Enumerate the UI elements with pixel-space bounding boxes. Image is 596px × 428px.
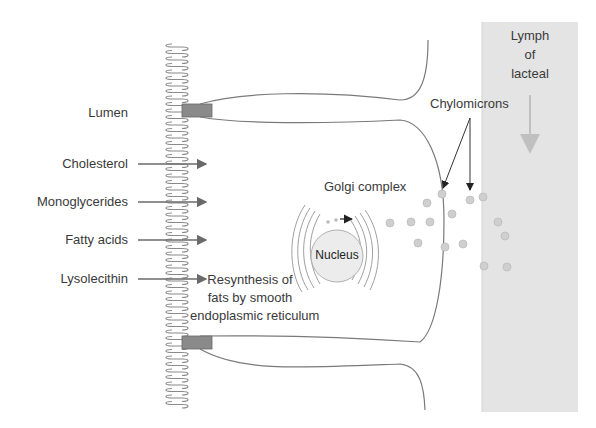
tight-junction-bottom [182, 336, 212, 349]
resynthesis-line-2: fats by smooth [190, 289, 310, 307]
label-monoglycerides: Monoglycerides [20, 194, 128, 209]
label-chylomicrons: Chylomicrons [430, 96, 509, 111]
resynthesis-line-1: Resynthesis of [190, 271, 310, 289]
lymph-line-3: lacteal [500, 64, 560, 83]
label-lumen: Lumen [40, 105, 128, 120]
lymph-line-2: of [500, 45, 560, 64]
label-cholesterol: Cholesterol [20, 156, 128, 171]
label-lysolecithin: Lysolecithin [20, 271, 128, 286]
tight-junction-top [182, 104, 212, 117]
label-lymph-of-lacteal: Lymph of lacteal [500, 26, 560, 83]
label-resynthesis: Resynthesis of fats by smooth endoplasmi… [190, 271, 310, 325]
label-fatty-acids: Fatty acids [20, 232, 128, 247]
label-nucleus: Nucleus [311, 248, 363, 262]
cell-membrane [200, 40, 444, 410]
lymph-line-1: Lymph [500, 26, 560, 45]
microvilli-brush-border [166, 44, 188, 408]
resynthesis-line-3: endoplasmic reticulum [190, 307, 310, 325]
label-golgi-complex: Golgi complex [324, 179, 406, 194]
